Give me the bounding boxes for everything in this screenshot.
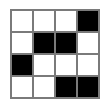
grid-cell-r3-c3[interactable] — [55, 54, 77, 76]
grid-cell-r4-c4[interactable] — [77, 76, 99, 98]
grid-cell-r1-c1[interactable] — [11, 10, 33, 32]
puzzle-grid — [10, 9, 100, 99]
grid-cell-r1-c4[interactable] — [77, 10, 99, 32]
grid-cell-r2-c2[interactable] — [33, 32, 55, 54]
grid-cell-r4-c3[interactable] — [55, 76, 77, 98]
grid-cell-r3-c2[interactable] — [33, 54, 55, 76]
grid-cell-r2-c4[interactable] — [77, 32, 99, 54]
grid-cell-r4-c2[interactable] — [33, 76, 55, 98]
grid-cell-r1-c3[interactable] — [55, 10, 77, 32]
grid-cell-r2-c3[interactable] — [55, 32, 77, 54]
grid-cell-r1-c2[interactable] — [33, 10, 55, 32]
grid-cell-r3-c4[interactable] — [77, 54, 99, 76]
grid-cell-r2-c1[interactable] — [11, 32, 33, 54]
grid-cell-r3-c1[interactable] — [11, 54, 33, 76]
grid-cell-r4-c1[interactable] — [11, 76, 33, 98]
